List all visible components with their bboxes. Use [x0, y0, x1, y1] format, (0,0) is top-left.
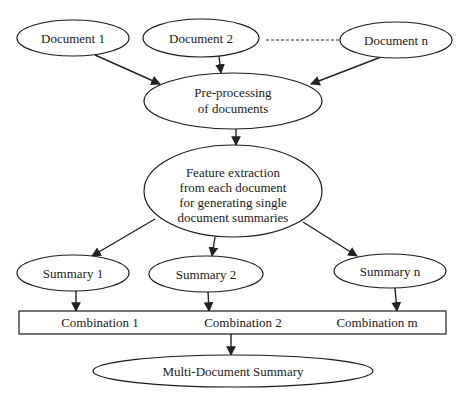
- combination-2-label: Combination 2: [204, 315, 282, 330]
- node-label: Summary 2: [176, 267, 236, 282]
- edge-sumn-to-combo: [395, 288, 397, 311]
- node-label-line-2: of documents: [198, 101, 268, 116]
- edge-doc2-to-preprocess: [219, 56, 221, 73]
- multi-document-summarization-diagram: Document 1 Document 2 Document n Pre-pro…: [0, 0, 467, 401]
- node-document-1: Document 1: [17, 20, 129, 56]
- node-preprocessing: Pre-processing of documents: [144, 73, 322, 129]
- node-combination-box: Combination 1 Combination 2 Combination …: [19, 311, 446, 334]
- node-label-line-2: from each document: [180, 180, 287, 195]
- node-label: Multi-Document Summary: [162, 364, 304, 379]
- edge-sum2-to-combo: [208, 291, 209, 311]
- edge-feature-to-sum1: [92, 219, 155, 256]
- node-label: Document 2: [169, 31, 233, 46]
- node-label: Document 1: [41, 31, 105, 46]
- node-document-n: Document n: [340, 22, 452, 58]
- edge-doc1-to-preprocess: [95, 55, 160, 84]
- node-label: Document n: [364, 33, 428, 48]
- combination-m-label: Combination m: [336, 315, 417, 330]
- node-summary-2: Summary 2: [149, 256, 263, 292]
- combination-1-label: Combination 1: [61, 315, 139, 330]
- node-document-2: Document 2: [143, 19, 259, 57]
- node-summary-n: Summary n: [334, 254, 446, 288]
- node-label-line-4: document summaries: [178, 210, 289, 225]
- edge-feature-to-sumn: [303, 222, 357, 256]
- edge-feature-to-sum2: [212, 237, 215, 256]
- node-label: Summary 1: [43, 266, 103, 281]
- node-summary-1: Summary 1: [17, 255, 129, 291]
- node-label: Summary n: [360, 264, 421, 279]
- node-feature-extraction: Feature extraction from each document fo…: [144, 145, 322, 237]
- node-multi-document-summary: Multi-Document Summary: [93, 355, 373, 387]
- edge-docn-to-preprocess: [311, 57, 381, 84]
- node-label-line-1: Pre-processing: [194, 85, 272, 100]
- node-label-line-3: for generating single: [179, 195, 287, 210]
- node-label-line-1: Feature extraction: [186, 165, 281, 180]
